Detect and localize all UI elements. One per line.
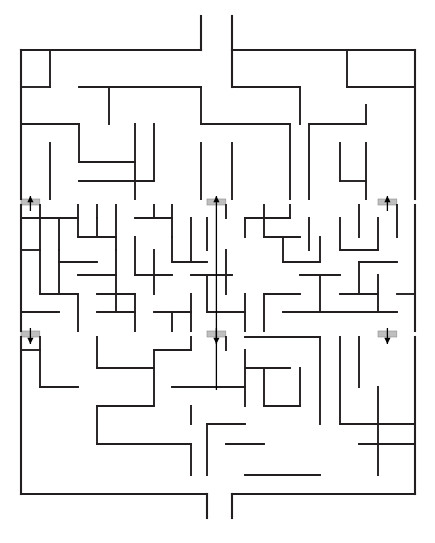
arrow-down-center-head: [213, 338, 219, 344]
maze-border-layer: [21, 50, 415, 494]
arrow-down-right-head: [384, 338, 390, 344]
maze-canvas: [0, 0, 435, 543]
maze-page: [0, 0, 435, 543]
direction-arrows-layer: [27, 196, 390, 390]
arrow-down-left-head: [27, 338, 33, 344]
maze-walls-layer: [21, 50, 415, 475]
arrow-up-center: [213, 196, 219, 390]
